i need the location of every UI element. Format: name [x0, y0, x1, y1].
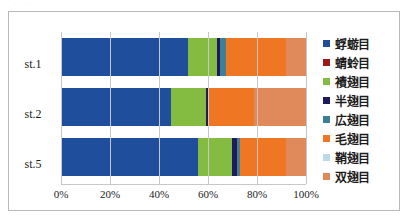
x-axis-tick-label: 80% — [237, 188, 277, 200]
legend-label: 半翅目 — [335, 92, 370, 109]
legend-item: 毛翅目 — [323, 129, 397, 148]
legend-item: 広翅目 — [323, 110, 397, 129]
bar-segment — [198, 138, 232, 176]
legend-swatch — [323, 116, 330, 123]
gridline — [257, 32, 258, 184]
scan-artifact: · ·· ·· — [14, 1, 46, 6]
legend-item: 襀翅目 — [323, 72, 397, 91]
legend-swatch — [323, 78, 330, 85]
legend-label: 蜻蛉目 — [335, 54, 370, 71]
legend-label: 双翅目 — [335, 168, 370, 185]
gridline — [306, 32, 307, 184]
legend-swatch — [323, 59, 330, 66]
bar-segment — [61, 38, 188, 76]
bar-segment — [286, 38, 306, 76]
chart-frame: st.1 st.2 st.5 蜉蝣目蜻蛉目襀翅目半翅目広翅目毛翅目鞘翅目双翅目 … — [8, 11, 400, 211]
legend-swatch — [323, 97, 330, 104]
gridline — [110, 32, 111, 184]
y-axis-label-st1: st.1 — [9, 57, 57, 72]
legend-swatch — [323, 40, 330, 47]
bar-segment — [188, 38, 216, 76]
legend-label: 蜉蝣目 — [335, 35, 370, 52]
bar-segment — [240, 138, 287, 176]
x-axis-tick-label: 20% — [90, 188, 130, 200]
legend-swatch — [323, 135, 330, 142]
x-axis-line — [61, 184, 306, 185]
x-axis-tick-label: 40% — [139, 188, 179, 200]
legend-swatch — [323, 154, 330, 161]
stacked-bar-st5 — [61, 138, 306, 176]
legend-label: 毛翅目 — [335, 130, 370, 147]
legend-label: 鞘翅目 — [335, 149, 370, 166]
x-axis-tick-label: 100% — [286, 188, 326, 200]
gridline — [61, 32, 62, 184]
x-axis-tick-label: 60% — [188, 188, 228, 200]
gridline — [208, 32, 209, 184]
chart-legend: 蜉蝣目蜻蛉目襀翅目半翅目広翅目毛翅目鞘翅目双翅目 — [323, 34, 397, 186]
stacked-bar-st2 — [61, 88, 306, 126]
y-axis-label-st2: st.2 — [9, 107, 57, 122]
x-axis-tick-label: 0% — [41, 188, 81, 200]
bar-segment — [254, 88, 306, 126]
y-axis-label-st5: st.5 — [9, 157, 57, 172]
bar-segment — [286, 138, 306, 176]
legend-item: 鞘翅目 — [323, 148, 397, 167]
bar-segment — [208, 88, 255, 126]
stacked-bar-st1 — [61, 38, 306, 76]
plot-area — [61, 32, 306, 184]
legend-swatch — [323, 173, 330, 180]
bar-segment — [61, 88, 171, 126]
legend-item: 半翅目 — [323, 91, 397, 110]
bar-segment — [61, 138, 198, 176]
legend-label: 広翅目 — [335, 111, 370, 128]
bar-segment — [171, 88, 205, 126]
legend-item: 蜻蛉目 — [323, 53, 397, 72]
legend-item: 蜉蝣目 — [323, 34, 397, 53]
legend-item: 双翅目 — [323, 167, 397, 186]
gridline — [159, 32, 160, 184]
legend-label: 襀翅目 — [335, 73, 370, 90]
